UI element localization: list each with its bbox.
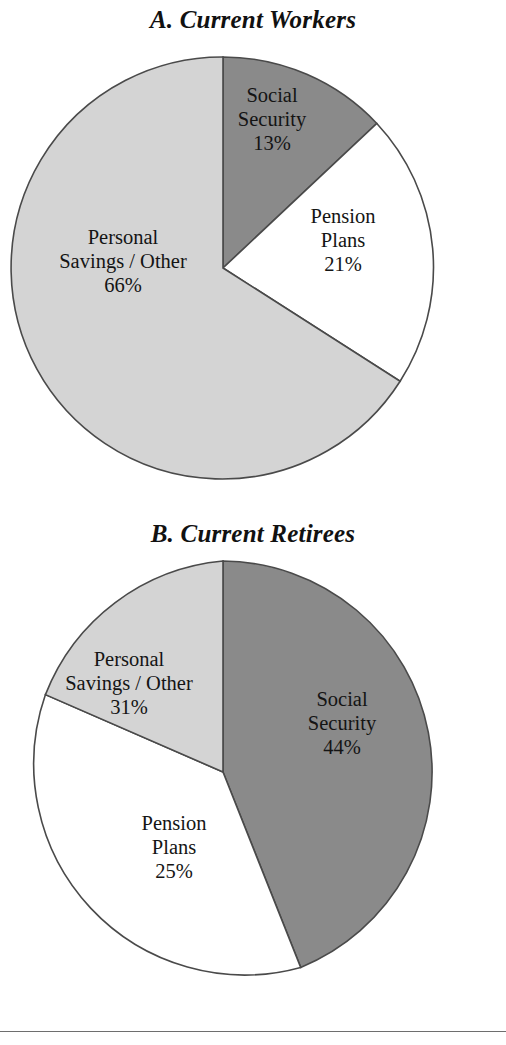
figure-page: A. Current Workers Social Security 13% P… [0,0,506,1045]
pie-b-label-personal-savings: Personal Savings / Other 31% [34,648,224,719]
panel-current-workers: A. Current Workers Social Security 13% P… [0,0,506,500]
pie-a-label-personal-savings-line1: Personal [88,226,159,248]
pie-a-label-pension-plans-line2: Plans [321,229,365,251]
pie-a-label-social-security-line1: Social [246,84,297,106]
pie-chart-b [9,558,437,986]
pie-b-label-social-security-line1: Social [316,688,367,710]
panel-a-title: A. Current Workers [0,6,506,34]
pie-a-value-social-security: 13% [212,132,332,156]
pie-a-value-pension-plans: 21% [283,253,403,277]
footer-divider [0,1031,506,1032]
pie-b-label-pension-plans-line1: Pension [142,812,207,834]
pie-a-label-social-security-line2: Security [238,108,306,130]
panel-current-retirees: B. Current Retirees Social Security 44% … [0,500,506,1005]
pie-a-label-social-security: Social Security 13% [212,84,332,155]
pie-b-label-personal-savings-line2: Savings / Other [65,672,193,694]
pie-a-label-personal-savings-line2: Savings / Other [59,250,187,272]
pie-b-label-social-security-line2: Security [308,712,376,734]
pie-b-label-pension-plans: Pension Plans 25% [104,812,244,883]
pie-a-label-pension-plans-line1: Pension [311,205,376,227]
pie-a-value-personal-savings: 66% [28,274,218,298]
pie-b-label-social-security: Social Security 44% [277,688,407,759]
pie-b-label-personal-savings-line1: Personal [94,648,165,670]
panel-b-title: B. Current Retirees [0,520,506,548]
pie-b-label-pension-plans-line2: Plans [152,836,196,858]
pie-a-label-personal-savings: Personal Savings / Other 66% [28,226,218,297]
pie-b-value-social-security: 44% [277,736,407,760]
pie-b-value-personal-savings: 31% [34,696,224,720]
pie-b-value-pension-plans: 25% [104,860,244,884]
pie-b-svg [9,558,437,986]
pie-a-label-pension-plans: Pension Plans 21% [283,205,403,276]
